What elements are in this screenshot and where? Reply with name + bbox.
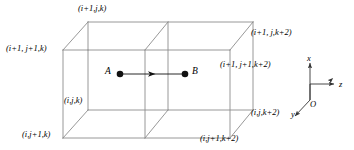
axis-origin-label: O: [310, 100, 316, 109]
point-a-label: A: [105, 67, 111, 77]
grid-cell-figure: (i+1,j,k) (i+1, j+1,k) (i+1, j,k+2) (i+1…: [0, 0, 354, 150]
axis-z-label: z: [339, 80, 342, 89]
depth-edges: [63, 22, 253, 138]
axis-z-line: [310, 78, 333, 100]
a-to-b-arrow: [121, 71, 184, 77]
vertex-label-bot-front-left: (i,j+1,k): [22, 130, 50, 139]
vertex-label-bot-back-right: (i,j,k+2): [251, 108, 279, 117]
vertex-label-bot-front-right: (i,j+1,k+2): [200, 134, 238, 143]
vertex-label-top-front-left: (i+1, j+1,k): [6, 44, 47, 53]
vertex-label-top-back-left: (i+1,j,k): [78, 4, 106, 13]
vertex-label-bot-back-left: (i,j,k): [64, 96, 82, 105]
axis-y-label: y: [291, 110, 295, 119]
axis-x-label: x: [307, 54, 311, 63]
box-wireframe: [0, 0, 354, 150]
axis-y-line: [295, 100, 310, 116]
middle-divider-plane: [145, 22, 168, 138]
vertex-label-top-front-right: (i+1, j+1,k+2): [220, 60, 271, 69]
point-b-dot: [182, 71, 189, 78]
point-b-label: B: [192, 67, 198, 77]
point-a-dot: [117, 71, 124, 78]
vertex-label-top-back-right: (i+1, j,k+2): [251, 28, 292, 37]
